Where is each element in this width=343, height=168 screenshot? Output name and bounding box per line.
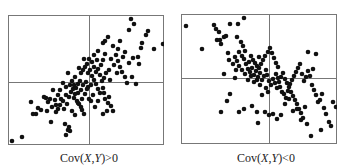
data-point (282, 92, 287, 97)
data-point (115, 71, 120, 76)
data-point (140, 41, 145, 46)
data-point (123, 75, 128, 80)
data-point (127, 61, 132, 66)
caption-positive: Cov(X,Y)>0 (34, 151, 144, 166)
data-point (108, 78, 113, 83)
data-point (45, 109, 50, 114)
data-point (101, 112, 106, 117)
data-point (291, 109, 296, 114)
data-point (120, 70, 125, 75)
data-point (123, 50, 128, 55)
data-point (233, 55, 238, 60)
data-point (269, 83, 274, 88)
data-point (74, 86, 79, 91)
data-point (48, 97, 53, 102)
data-point (90, 74, 95, 79)
data-point (306, 50, 311, 55)
scatter-svg (181, 14, 337, 144)
data-point (95, 58, 100, 63)
data-point (259, 62, 264, 67)
data-point (82, 112, 87, 117)
data-point (109, 104, 114, 109)
caption-text: )>0 (101, 151, 118, 165)
data-point (85, 62, 90, 67)
data-point (237, 64, 242, 69)
data-point (286, 89, 291, 94)
data-point (291, 94, 296, 99)
data-point (257, 66, 262, 71)
data-point (236, 22, 241, 27)
data-point (318, 98, 323, 103)
data-point (61, 81, 66, 86)
data-point (270, 51, 275, 56)
data-point (139, 46, 144, 51)
data-point (200, 47, 205, 52)
data-point (250, 66, 255, 71)
data-point (260, 93, 265, 98)
data-point (99, 63, 104, 68)
data-point (67, 125, 72, 130)
data-point (136, 55, 141, 60)
data-point (132, 22, 137, 27)
caption-text: Cov( (60, 151, 84, 165)
data-point (287, 97, 292, 102)
data-point (256, 121, 261, 126)
data-point (72, 96, 77, 101)
data-point (76, 101, 81, 106)
data-point (267, 79, 272, 84)
data-point (293, 98, 298, 103)
data-point (225, 99, 230, 104)
data-point (235, 35, 240, 40)
data-point (237, 50, 242, 55)
data-point (121, 55, 126, 60)
data-point (10, 139, 15, 144)
data-point (82, 57, 87, 62)
data-point (243, 72, 248, 77)
data-point (283, 77, 288, 82)
data-point (51, 88, 56, 93)
data-point (103, 39, 108, 44)
data-point (241, 44, 246, 49)
data-point (129, 17, 134, 22)
data-point (109, 57, 114, 62)
data-point (161, 42, 164, 47)
data-point (314, 52, 319, 57)
caption-text: )<0 (278, 151, 295, 165)
data-point (68, 129, 73, 134)
data-point (257, 55, 262, 60)
data-point (218, 38, 223, 43)
data-point (105, 109, 110, 114)
data-point (58, 103, 63, 108)
data-point (271, 77, 276, 82)
data-point (116, 59, 121, 64)
data-point (53, 98, 58, 103)
data-point (281, 71, 286, 76)
data-point (272, 56, 277, 61)
data-point (258, 83, 263, 88)
data-point (240, 68, 245, 73)
data-point (127, 28, 132, 33)
data-point (278, 85, 283, 90)
data-point (73, 113, 78, 118)
data-point (77, 66, 82, 71)
data-point (303, 105, 308, 110)
data-point (89, 83, 94, 88)
data-point (103, 97, 108, 102)
data-point (219, 42, 224, 47)
data-point (102, 76, 107, 81)
data-point (276, 65, 281, 70)
data-point (98, 91, 103, 96)
data-point (102, 91, 107, 96)
data-point (118, 65, 123, 70)
data-point (91, 93, 96, 98)
data-point (288, 82, 293, 87)
data-point (56, 93, 61, 98)
data-point (267, 113, 272, 118)
data-point (231, 62, 236, 67)
data-point (296, 66, 301, 71)
data-point (260, 78, 265, 83)
data-point (111, 44, 116, 49)
data-point (68, 83, 73, 88)
data-point (294, 70, 299, 75)
data-point (320, 92, 325, 97)
